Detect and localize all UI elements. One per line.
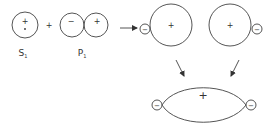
hybrid-orbital-2: + − [209, 4, 262, 46]
hybrid-orbital-1: + − [140, 4, 192, 46]
diagram-canvas: + S1 + − + P1 + − + − [0, 0, 273, 134]
sp-hybridization-diagram: + S1 + − + P1 + − + − [0, 0, 273, 134]
s-orbital-nucleus-dot [24, 28, 26, 30]
down-arrow-right [231, 60, 239, 76]
combined-center-sign: + [198, 89, 207, 102]
plus-operator: + [46, 21, 53, 30]
hybrid-2-small-sign: − [254, 26, 260, 34]
p-right-lobe-sign: + [94, 17, 101, 26]
s-orbital-sign: + [22, 17, 29, 26]
combined-left-small-sign: − [154, 102, 160, 110]
s-orbital: + S1 [12, 12, 38, 59]
p-orbital-label: P1 [78, 48, 87, 59]
hybrid-1-large-sign: + [168, 21, 175, 30]
combined-orbital: + − − [152, 88, 256, 123]
down-arrow-left [176, 60, 184, 76]
p-left-lobe-sign: − [68, 17, 75, 26]
combined-right-small-sign: − [248, 102, 254, 110]
hybrid-1-small-sign: − [142, 26, 148, 34]
hybrid-2-large-sign: + [227, 21, 234, 30]
p-orbital: − + P1 [60, 13, 108, 59]
s-orbital-label: S1 [19, 48, 28, 59]
